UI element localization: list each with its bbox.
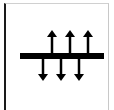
flux-arrows-icon xyxy=(0,0,114,110)
up-arrows xyxy=(47,30,93,53)
down-arrows xyxy=(38,59,84,81)
horizontal-bar xyxy=(20,53,104,59)
